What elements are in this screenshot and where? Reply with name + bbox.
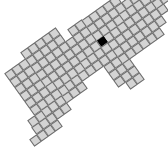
game-board bbox=[0, 0, 168, 152]
